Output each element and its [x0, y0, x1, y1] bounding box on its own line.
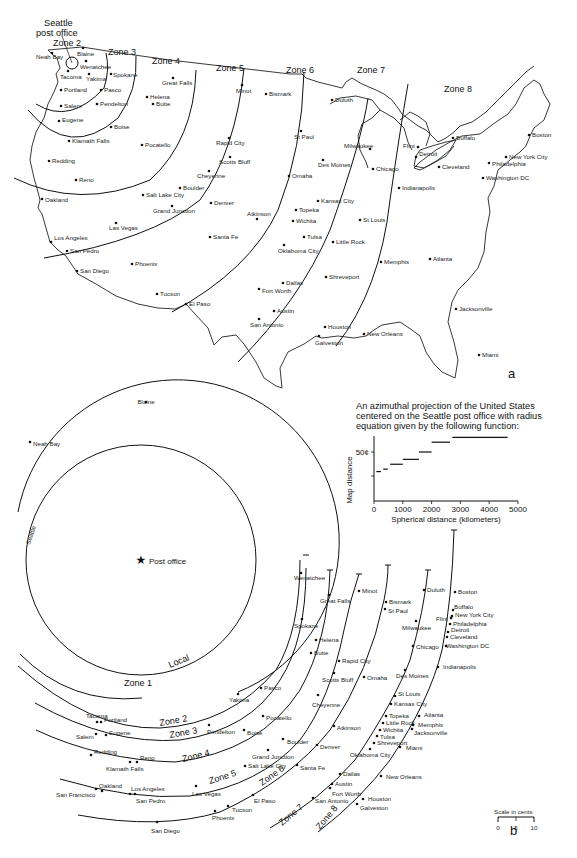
city-dot-icon	[438, 166, 441, 169]
chart-step-series	[376, 437, 507, 471]
city-dot-icon	[411, 728, 414, 731]
city-label: Little Rock	[386, 719, 416, 726]
zone-label: Zone 5	[216, 63, 244, 73]
panel-b-diagram: ★ Post office Seattle Local Zone 1 Zone …	[18, 380, 538, 838]
city-dot-icon	[423, 589, 426, 592]
city-label: St Paul	[388, 607, 408, 614]
x-tick-label: 1000	[394, 505, 412, 514]
city-label: St Paul	[294, 133, 314, 140]
city-dot-icon	[332, 241, 335, 244]
city-dot-icon	[152, 103, 155, 106]
city-markers-b: BlaineNeah BayWenatcheeSpokaneYakimaPasc…	[29, 398, 495, 834]
city-dot-icon	[156, 821, 159, 824]
city-label: Los Angeles	[54, 234, 88, 241]
city-label: San Pedro	[136, 797, 166, 804]
city-label: Oklahoma City	[350, 751, 391, 758]
city-label: Eugene	[109, 729, 131, 736]
city-dot-icon	[379, 729, 382, 732]
city-dot-icon	[296, 764, 299, 767]
seattle-arc-label: Seattle	[24, 524, 37, 545]
city-label: Portland	[64, 86, 88, 93]
city-label: Neah Bay	[33, 440, 61, 447]
city-label: Indianapolis	[443, 663, 476, 670]
city-dot-icon	[136, 761, 139, 764]
city-label: Minot	[236, 87, 251, 94]
city-dot-icon	[338, 660, 341, 663]
city-dot-icon	[412, 724, 415, 727]
local-arc-label: Local	[167, 653, 191, 670]
city-dot-icon	[283, 244, 286, 247]
city-dot-icon	[76, 270, 79, 273]
city-label: Boise	[114, 123, 130, 130]
city-dot-icon	[288, 175, 291, 178]
city-dot-icon	[454, 591, 457, 594]
city-dot-icon	[339, 773, 342, 776]
city-dot-icon	[96, 103, 99, 106]
zone2-arc-label: Zone 2	[159, 713, 188, 728]
city-dot-icon	[380, 261, 383, 264]
city-dot-icon	[262, 715, 265, 718]
city-label: Oakland	[45, 196, 69, 203]
city-dot-icon	[179, 187, 182, 190]
zone1-ring-left	[20, 654, 142, 699]
city-dot-icon	[265, 93, 268, 96]
city-dot-icon	[418, 715, 421, 718]
chart-caption-line1: An azimuthal projection of the United St…	[356, 401, 535, 411]
city-dot-icon	[75, 179, 78, 182]
city-label: Shreveport	[377, 739, 408, 746]
zone4-arc-label: Zone 4	[181, 747, 211, 763]
city-label: Salem	[76, 733, 94, 740]
city-label: Scotts Bluff	[219, 158, 250, 165]
zone-label: Zone 3	[108, 47, 136, 57]
city-label: St Louis	[398, 690, 420, 697]
city-dot-icon	[50, 241, 53, 244]
seattle-annotation-line2: post office	[36, 28, 78, 38]
city-dot-icon	[156, 293, 159, 296]
great-lakes	[330, 96, 456, 168]
city-dot-icon	[300, 130, 303, 133]
city-dot-icon	[60, 105, 63, 108]
city-label: Jacksonville	[459, 305, 493, 312]
city-dot-icon	[58, 120, 61, 123]
city-label: Boise	[247, 729, 263, 736]
city-label: New York City	[509, 153, 548, 160]
chart-caption-line2: centered on the Seattle post office with…	[356, 411, 542, 421]
city-dot-icon	[318, 335, 321, 338]
city-dot-icon	[482, 177, 485, 180]
city-dot-icon	[446, 636, 449, 639]
city-dot-icon	[376, 735, 379, 738]
city-dot-icon	[429, 258, 432, 261]
city-label: Oakland	[99, 782, 123, 789]
city-label: Bismark	[389, 598, 412, 605]
city-dot-icon	[363, 333, 366, 336]
city-label: Blaine	[137, 398, 155, 405]
city-dot-icon	[417, 146, 420, 149]
city-label: Buffalo	[456, 134, 476, 141]
city-label: Kansas City	[321, 197, 355, 204]
city-dot-icon	[385, 601, 388, 604]
city-dot-icon	[237, 693, 240, 696]
city-label: El Paso	[189, 300, 211, 307]
city-label: Pendelton	[100, 100, 128, 107]
city-label: Galveston	[360, 804, 388, 811]
city-label: Klamath Falls	[106, 765, 143, 772]
city-label: Yakima	[86, 75, 107, 82]
city-label: Tucson	[160, 290, 181, 297]
city-markers-a: Neah BayBlaineWenatcheeTacomaYakimaSpoka…	[36, 47, 552, 358]
city-label: Pendelton	[207, 728, 235, 735]
city-label: Salt Lake City	[248, 762, 287, 769]
city-dot-icon	[68, 140, 71, 143]
scale-tick-0: 0	[496, 824, 500, 831]
city-label: Neah Bay	[36, 53, 64, 60]
city-dot-icon	[243, 729, 246, 732]
city-dot-icon	[100, 721, 103, 724]
city-label: Great Falls	[320, 597, 350, 604]
x-tick-label: 5000	[509, 505, 527, 514]
city-dot-icon	[110, 73, 113, 76]
city-dot-icon	[362, 798, 365, 801]
city-label: New Orleans	[367, 330, 403, 337]
city-dot-icon	[208, 724, 211, 727]
city-dot-icon	[317, 694, 320, 697]
city-dot-icon	[363, 676, 366, 679]
city-dot-icon	[303, 236, 306, 239]
